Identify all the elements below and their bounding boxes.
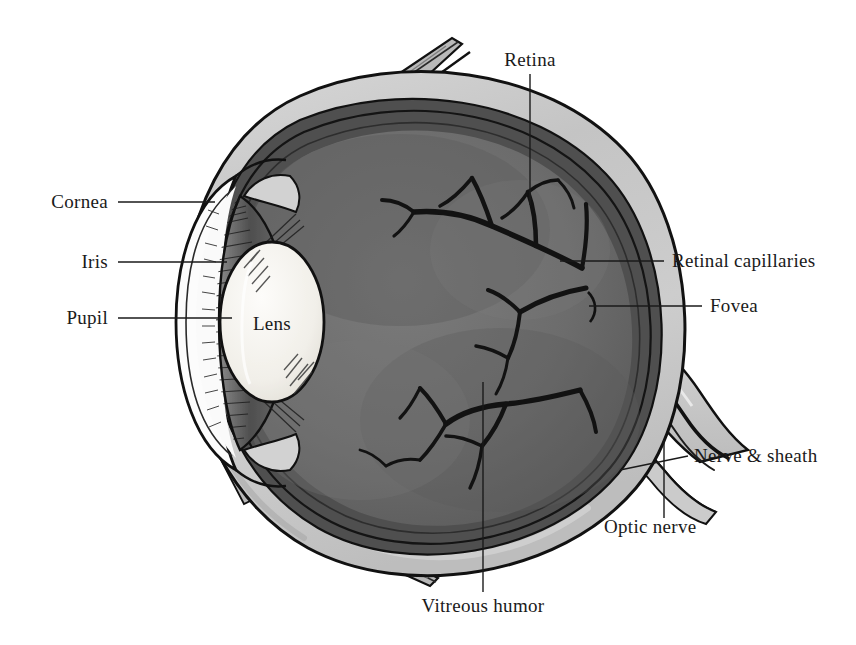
label-nerve-sheath: Nerve & sheath (694, 445, 817, 467)
label-fovea: Fovea (710, 295, 758, 317)
label-lens: Lens (253, 313, 291, 335)
label-optic-nerve: Optic nerve (604, 516, 696, 538)
label-retina: Retina (504, 49, 555, 71)
label-iris: Iris (81, 251, 108, 273)
label-pupil: Pupil (66, 307, 108, 329)
label-cornea: Cornea (51, 191, 108, 213)
label-retinal-capillaries: Retinal capillaries (672, 250, 815, 272)
eye-anatomy-figure: RetinaCorneaIrisPupilLensRetinal capilla… (0, 0, 856, 645)
label-vitreous-humor: Vitreous humor (422, 595, 545, 617)
eye-diagram (0, 0, 856, 645)
